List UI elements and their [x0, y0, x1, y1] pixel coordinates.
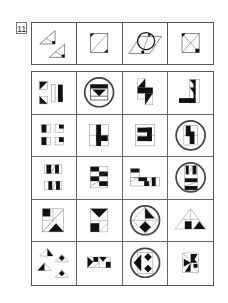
circled-arrow-diamonds-icon: [123, 242, 167, 285]
circled-bars-icon: [168, 157, 213, 199]
option-r5c2[interactable]: [77, 242, 122, 285]
four-triangles-icon: [32, 242, 76, 285]
step-rects-icon: [123, 157, 167, 199]
triangle-square-icon: [168, 200, 213, 242]
circled-square-icon: [77, 72, 121, 114]
bowtie-row-icon: [77, 242, 121, 285]
stem-figure-2: [77, 23, 122, 64]
c-shape-icon: [123, 115, 167, 157]
option-r2c4[interactable]: [168, 115, 213, 158]
option-r5c1[interactable]: [32, 242, 77, 285]
square-diagonal-icon: [77, 23, 121, 64]
option-r1c1[interactable]: [32, 72, 77, 115]
diagonal-triangle-icon: [32, 200, 76, 242]
two-bars-icon: [32, 157, 76, 199]
option-r3c4[interactable]: [168, 157, 213, 200]
stem-figure-1: [32, 23, 77, 64]
circle-parallelogram-icon: [123, 23, 167, 64]
question-number: 11: [16, 22, 27, 34]
option-r4c2[interactable]: [77, 200, 122, 243]
option-r2c1[interactable]: [32, 115, 77, 158]
option-r3c2[interactable]: [77, 157, 122, 200]
options-grid: [31, 71, 214, 286]
option-r1c4[interactable]: [168, 72, 213, 115]
l-shape-icon: [168, 72, 213, 114]
option-r3c3[interactable]: [123, 157, 168, 200]
s-triangles-icon: [123, 72, 167, 114]
circled-step-icon: [168, 115, 213, 157]
option-r2c2[interactable]: [77, 115, 122, 158]
striped-stack-icon: [77, 157, 121, 199]
option-r3c1[interactable]: [32, 157, 77, 200]
four-squares-icon: [32, 115, 76, 157]
option-r2c3[interactable]: [123, 115, 168, 158]
option-r5c4[interactable]: [168, 242, 213, 285]
t-shape-icon: [77, 115, 121, 157]
option-r4c4[interactable]: [168, 200, 213, 243]
bars-triangles-icon: [32, 72, 76, 114]
option-r5c3[interactable]: [123, 242, 168, 285]
option-r4c3[interactable]: [123, 200, 168, 243]
circled-diamond-icon: [123, 200, 167, 242]
stem-figures: [31, 22, 214, 65]
stem-figure-3: [123, 23, 168, 64]
stem-figure-4: [168, 23, 213, 64]
pinwheel-icon: [168, 242, 213, 285]
option-r4c1[interactable]: [32, 200, 77, 243]
hourglass-icon: [77, 200, 121, 242]
triangles-icon: [32, 23, 76, 64]
option-r1c3[interactable]: [123, 72, 168, 115]
option-r1c2[interactable]: [77, 72, 122, 115]
square-x-icon: [168, 23, 213, 64]
